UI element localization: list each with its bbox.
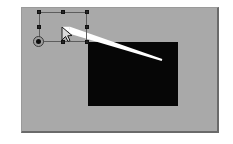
- handle-bottom-right[interactable]: [85, 40, 89, 44]
- shape-black-rectangle[interactable]: [88, 42, 178, 106]
- canvas-panel[interactable]: [21, 7, 219, 133]
- handle-top-right[interactable]: [85, 10, 89, 14]
- canvas-surface[interactable]: [22, 8, 217, 131]
- handle-top-left[interactable]: [37, 10, 41, 14]
- arrow-cursor-icon: [61, 26, 75, 44]
- screenshot-root: [0, 0, 233, 144]
- pivot-handle[interactable]: [33, 36, 44, 47]
- handle-top-center[interactable]: [61, 10, 65, 14]
- handle-middle-left[interactable]: [37, 25, 41, 29]
- cursor-arrow-shape: [62, 27, 72, 42]
- handle-middle-right[interactable]: [85, 25, 89, 29]
